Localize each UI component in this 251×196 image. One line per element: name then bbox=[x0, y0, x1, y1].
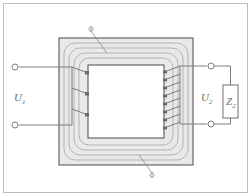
primary-terminal-bottom[interactable] bbox=[12, 122, 18, 128]
primary-voltage-subscript: 1 bbox=[22, 98, 26, 106]
secondary-terminal-bottom[interactable] bbox=[208, 121, 214, 127]
load-impedance-subscript: 2 bbox=[232, 102, 236, 110]
secondary-terminal-top[interactable] bbox=[208, 63, 214, 69]
secondary-pad-6 bbox=[163, 111, 167, 114]
secondary-voltage-label: U2 bbox=[201, 91, 213, 106]
secondary-pad-3 bbox=[163, 87, 167, 90]
secondary-pad-8 bbox=[163, 127, 167, 130]
secondary-pad-1 bbox=[163, 71, 167, 74]
primary-voltage-label: U1 bbox=[14, 91, 25, 106]
primary-terminal-top[interactable] bbox=[12, 64, 18, 70]
flux-symbol-bottom-icon bbox=[150, 172, 154, 178]
transformer-diagram-canvas: U1 bbox=[0, 0, 251, 196]
secondary-voltage-subscript: 2 bbox=[209, 98, 213, 106]
magnetic-core bbox=[59, 38, 193, 165]
primary-pad-2 bbox=[85, 92, 89, 96]
core-window-outline bbox=[88, 65, 164, 138]
secondary-pad-7 bbox=[163, 119, 167, 122]
flux-line-3 bbox=[74, 53, 178, 150]
primary-pad-1 bbox=[85, 71, 89, 75]
primary-pad-3 bbox=[85, 113, 89, 117]
secondary-pad-2 bbox=[163, 79, 167, 82]
secondary-pad-5 bbox=[163, 103, 167, 106]
secondary-pad-4 bbox=[163, 95, 167, 98]
schematic-svg: U1 bbox=[0, 0, 251, 196]
flux-symbol-top-icon bbox=[89, 26, 93, 32]
flux-line-4 bbox=[79, 58, 173, 145]
